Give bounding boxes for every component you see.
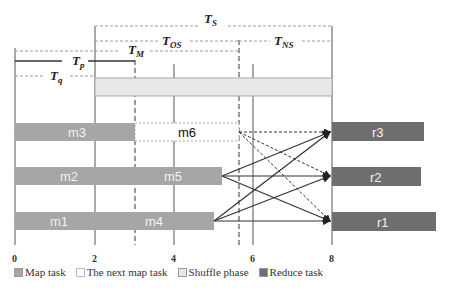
task-r3-label: r3: [372, 125, 384, 140]
label-tq: Tq: [50, 68, 63, 85]
label-ts: TS: [204, 11, 217, 28]
legend-shuffle-phase-label: Shuffle phase: [189, 266, 249, 278]
x-tick-6: 6: [250, 253, 255, 264]
x-tick-2: 2: [92, 253, 97, 264]
legend-next-map-task-label: The next map task: [87, 266, 168, 278]
task-m3-label: m3: [68, 125, 86, 140]
task-m2-label: m2: [60, 169, 78, 184]
legend-reduce-task: Reduce task: [259, 266, 323, 278]
legend-map-task: Map task: [14, 266, 66, 278]
label-tm: TM: [128, 42, 145, 59]
next-map-swatch-icon: [76, 268, 85, 277]
shuffle-arrows-m5: [222, 132, 330, 221]
shuffle-phase-band: [95, 78, 332, 96]
legend-reduce-task-label: Reduce task: [270, 266, 323, 278]
legend-shuffle-phase: Shuffle phase: [178, 266, 249, 278]
legend-map-task-label: Map task: [25, 266, 66, 278]
x-tick-0: 0: [12, 253, 17, 264]
label-tos: TOS: [162, 33, 181, 50]
x-tick-8: 8: [329, 253, 334, 264]
legend: Map task The next map task Shuffle phase…: [14, 266, 323, 278]
x-tick-4: 4: [171, 253, 176, 264]
label-tns: TNS: [274, 33, 293, 50]
mapreduce-timeline-diagram: TS TOS TNS TM Tp Tq m3 m6 m2 m5 m1 m4 r3…: [0, 0, 452, 291]
task-r2-label: r2: [370, 170, 382, 185]
task-m5-label: m5: [164, 169, 182, 184]
shuffle-swatch-icon: [178, 268, 187, 277]
label-tp: Tp: [72, 53, 85, 70]
task-m4-label: m4: [145, 214, 163, 229]
legend-next-map-task: The next map task: [76, 266, 168, 278]
map-swatch-icon: [14, 268, 23, 277]
reduce-swatch-icon: [259, 268, 268, 277]
task-r1-label: r1: [377, 215, 389, 230]
task-m6-label: m6: [178, 125, 196, 140]
task-m1-label: m1: [50, 214, 68, 229]
